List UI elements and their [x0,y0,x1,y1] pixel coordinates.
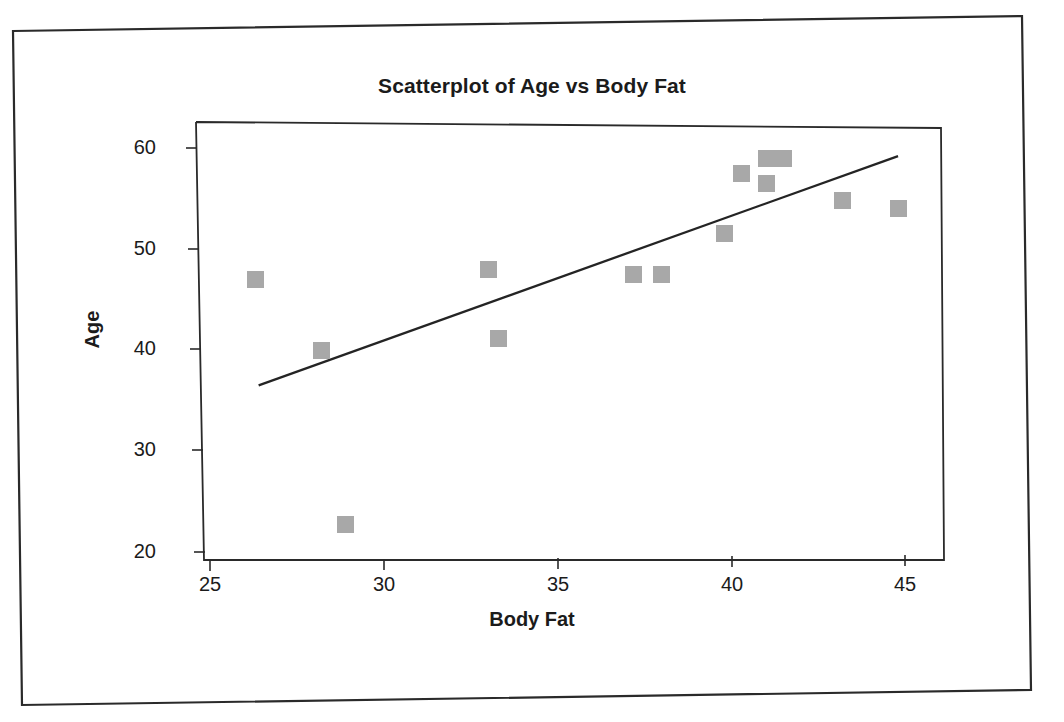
data-point [758,175,775,192]
plot-frame [196,122,944,560]
data-point [716,225,733,242]
data-point [247,271,264,288]
plot-canvas [0,0,1064,722]
x-axis-ticks [210,555,905,571]
data-point [775,150,792,167]
data-point [834,192,851,209]
data-point [337,516,354,533]
trend-line [259,156,898,385]
data-point [733,165,750,182]
data-point [758,150,775,167]
data-point [490,330,507,347]
data-point [653,266,670,283]
data-point [890,200,907,217]
data-point [480,261,497,278]
scatterplot-figure: Scatterplot of Age vs Body Fat Age Body … [0,0,1064,722]
data-point [313,342,330,359]
data-point [625,266,642,283]
